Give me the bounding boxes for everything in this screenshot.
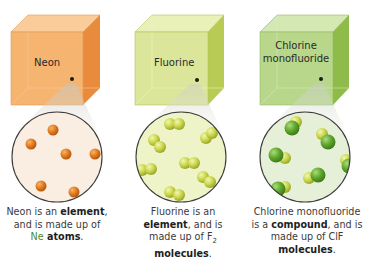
chlorine-monofluoride-cube: Chlorine monofluoride (260, 15, 349, 105)
caption-text: , and is (328, 219, 363, 230)
caption-subscript: 2 (212, 237, 216, 245)
neon-cube: Neon (11, 15, 100, 105)
caption-text: and is made up of (0, 219, 118, 232)
caption-text: Chlorine monofluoride (246, 206, 366, 219)
chlorine-monofluoride-caption: Chlorine monofluoride is a compound, and… (246, 206, 366, 256)
sample-point-dot (195, 78, 199, 82)
chlorine-monofluoride-panel: Chlorine monofluoride (260, 15, 357, 202)
caption-term-molecules: molecules (278, 244, 332, 255)
caption-text: made up of F (149, 231, 212, 242)
chlorine-monofluoride-cube-label-line2: monofluoride (263, 53, 329, 64)
caption-text: is a (252, 219, 272, 230)
ne-atom (69, 187, 80, 198)
fluorine-caption: Fluorine is an element, and is made up o… (122, 206, 244, 260)
ne-atom (48, 125, 59, 136)
ne-atom (90, 149, 101, 160)
caption-symbol-ne: Ne (31, 231, 44, 242)
fluorine-cube-label: Fluorine (154, 57, 194, 68)
caption-text: , and is (188, 219, 223, 230)
neon-magnified-view (12, 112, 102, 202)
ne-atom (36, 181, 47, 192)
neon-panel: Neon (11, 15, 102, 202)
caption-text: Neon is an (6, 206, 60, 217)
caption-term-element: element (143, 219, 187, 230)
caption-term-atoms: atoms (44, 231, 81, 242)
neon-caption: Neon is an element, and is made up of Ne… (0, 206, 118, 244)
neon-cube-label: Neon (34, 57, 60, 68)
caption-text: , (104, 206, 107, 217)
caption-text: Fluorine is an (122, 206, 244, 219)
caption-text: made up of ClF (246, 231, 366, 244)
caption-term-molecules: molecules (154, 248, 208, 259)
fluorine-panel: Fluorine (135, 15, 226, 202)
fluorine-magnified-view (136, 112, 226, 202)
ne-atom (61, 149, 72, 160)
fluorine-cube: Fluorine (135, 15, 224, 105)
caption-text: . (209, 248, 212, 259)
chlorine-monofluoride-cube-label-line1: Chlorine (275, 40, 317, 51)
caption-text: . (333, 244, 336, 255)
caption-term-compound: compound (271, 219, 327, 230)
ne-atom (26, 139, 37, 150)
caption-term-element: element (60, 206, 104, 217)
caption-text: . (80, 231, 83, 242)
sample-point-dot (70, 77, 74, 81)
sample-point-dot (319, 77, 323, 81)
